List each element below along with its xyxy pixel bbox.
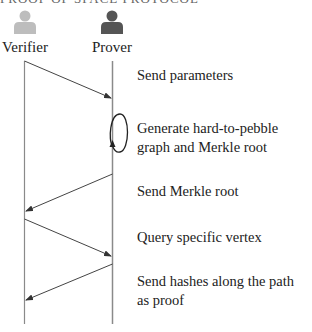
arrow-send-hashes [26, 264, 113, 300]
arrow-query-vertex [25, 219, 112, 256]
message-send-merkle-root: Send Merkle root [137, 182, 309, 201]
message-send-parameters: Send parameters [137, 66, 309, 85]
arrow-send-merkle-root [26, 174, 113, 211]
message-query-vertex: Query specific vertex [137, 228, 309, 247]
message-send-hashes: Send hashes along the path as proof [137, 272, 309, 310]
message-generate-graph: Generate hard-to-pebble graph and Merkle… [137, 119, 309, 157]
arrow-send-parameters [25, 61, 112, 98]
